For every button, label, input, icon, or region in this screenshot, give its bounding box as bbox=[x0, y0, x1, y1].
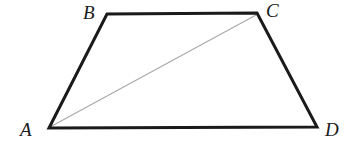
trapezoid-diagram-svg bbox=[0, 0, 352, 154]
vertex-label-a: A bbox=[20, 120, 32, 139]
vertex-label-c: C bbox=[266, 1, 279, 20]
geometry-figure: A B C D bbox=[0, 0, 352, 154]
figure-background bbox=[0, 0, 352, 154]
vertex-label-b: B bbox=[83, 3, 95, 22]
vertex-label-d: D bbox=[325, 120, 339, 139]
